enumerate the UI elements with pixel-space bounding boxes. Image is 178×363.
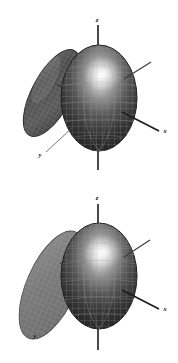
- top-3d-plot: z x y: [0, 0, 178, 181]
- x-axis-label: x: [162, 305, 167, 313]
- x-axis-label: x: [162, 127, 167, 135]
- specular-highlight: [83, 57, 123, 91]
- z-axis-label: z: [95, 16, 99, 24]
- bottom-3d-plot: z x y: [0, 182, 178, 363]
- main-lobe-surface: [61, 45, 137, 151]
- z-axis-label: z: [95, 194, 99, 202]
- specular-highlight: [83, 235, 123, 269]
- main-lobe-surface: [61, 223, 137, 329]
